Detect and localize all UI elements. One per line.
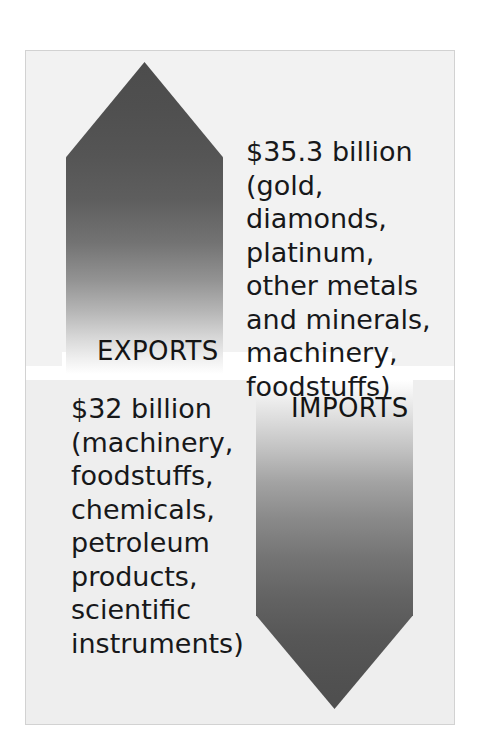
exports-arrow-up-icon <box>66 62 223 374</box>
exports-description: $35.3 billion (gold, diamonds, platinum,… <box>246 135 461 403</box>
imports-description: $32 billion (machinery, foodstuffs, chem… <box>71 392 271 660</box>
exports-arrow-shape <box>66 62 223 374</box>
infographic-figure: EXPORTS IMPORTS $35.3 billion (gold, dia… <box>0 0 484 751</box>
exports-label: EXPORTS <box>97 338 219 364</box>
imports-arrow-down-icon <box>256 380 413 709</box>
imports-arrow-shape <box>256 380 413 709</box>
